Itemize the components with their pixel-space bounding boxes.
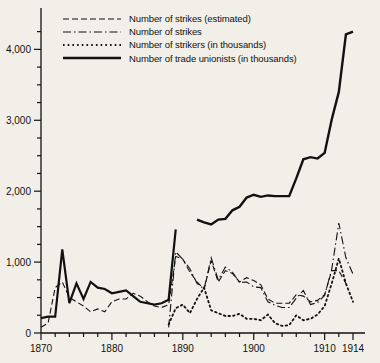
legend-item-strikes-estimated: Number of strikes (estimated): [63, 12, 297, 25]
legend-label-trade-unionists-thousands: Number of trade unionists (in thousands): [129, 52, 297, 65]
chart-root: 01,0002,0003,0004,0001870188018901900191…: [0, 0, 380, 363]
series-group: [41, 32, 353, 328]
x-axis-tick-label: 1890: [172, 343, 195, 354]
y-axis-tick-label: 4,000: [6, 44, 31, 55]
legend-swatch-dashdot-icon: [63, 26, 125, 38]
legend-label-strikes-estimated: Number of strikes (estimated): [129, 12, 251, 25]
legend-label-strikes: Number of strikes: [129, 25, 202, 38]
legend-item-trade-unionists-thousands: Number of trade unionists (in thousands): [63, 52, 297, 65]
x-axis-tick-label: 1880: [101, 343, 124, 354]
legend-swatch-dotted-icon: [63, 39, 125, 51]
y-axis-tick-label: 2,000: [6, 186, 31, 197]
legend-item-strikers-thousands: Number of strikers (in thousands): [63, 38, 297, 51]
y-axis-tick-label: 1,000: [6, 257, 31, 268]
legend-item-strikes: Number of strikes: [63, 25, 297, 38]
x-axis-tick-label: 1900: [243, 343, 266, 354]
chart-legend: Number of strikes (estimated) Number of …: [63, 12, 297, 65]
y-axis-tick-label: 0: [25, 328, 31, 339]
legend-swatch-dashed-icon: [63, 13, 125, 25]
series-line-strikes-early-solid: [41, 229, 176, 318]
legend-swatch-solid-icon: [63, 52, 125, 64]
x-axis-tick-label: 1870: [30, 343, 53, 354]
x-axis-tick-label: 1910: [314, 343, 337, 354]
series-line-strikes: [169, 223, 353, 327]
y-axis-tick-label: 3,000: [6, 115, 31, 126]
legend-label-strikers-thousands: Number of strikers (in thousands): [129, 38, 266, 51]
x-axis-tick-label: 1914: [342, 343, 365, 354]
